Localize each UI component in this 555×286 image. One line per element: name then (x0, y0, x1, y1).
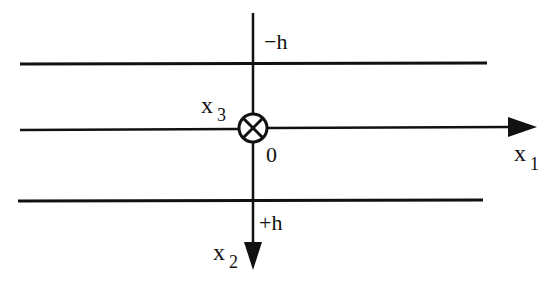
x3-into-page-icon (239, 114, 267, 142)
label-minus-h: −h (264, 29, 287, 54)
svg-text:2: 2 (229, 252, 238, 272)
label-x2: x 2 (213, 239, 238, 272)
layer-coordinate-diagram: −h +h 0 x 3 x 1 x 2 (0, 0, 555, 286)
x1-axis-line-right (267, 127, 510, 128)
label-plus-h: +h (259, 210, 282, 235)
svg-text:1: 1 (530, 154, 539, 174)
x1-arrowhead-icon (508, 117, 537, 137)
label-origin: 0 (266, 142, 277, 167)
svg-text:x: x (201, 92, 213, 118)
svg-text:3: 3 (217, 105, 226, 125)
label-x1: x 1 (514, 140, 539, 174)
label-x3: x 3 (201, 92, 226, 125)
x2-arrowhead-icon (244, 242, 262, 270)
bottom-boundary-line (18, 200, 483, 201)
svg-text:x: x (213, 239, 225, 265)
x1-axis-line-left (20, 129, 239, 130)
svg-text:x: x (514, 140, 526, 166)
